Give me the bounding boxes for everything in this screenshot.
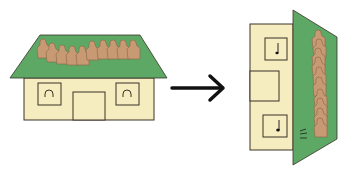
right-window	[116, 83, 139, 105]
door	[73, 92, 105, 120]
middle-door	[250, 71, 279, 101]
right-house	[250, 10, 337, 165]
left-house	[10, 35, 167, 120]
left-window	[38, 83, 61, 105]
illustration	[0, 0, 347, 173]
upper-window	[265, 38, 287, 60]
side-panel-figures	[312, 30, 327, 137]
arrow-right-icon	[172, 76, 223, 100]
lower-window	[263, 115, 287, 137]
